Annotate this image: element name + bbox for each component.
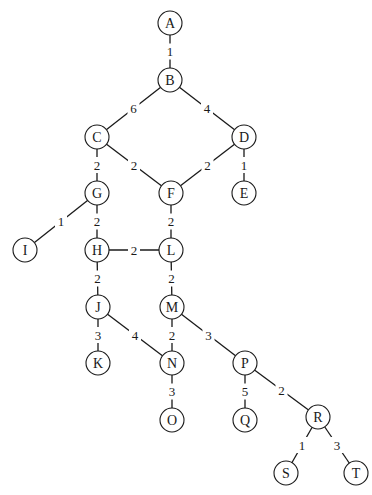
edge-weight-label: 1 xyxy=(299,438,306,453)
edge-weight-label: 3 xyxy=(205,328,212,343)
node-label: G xyxy=(92,186,102,201)
edge-weight-label: 1 xyxy=(58,214,65,229)
edge-weight-label: 3 xyxy=(95,328,102,343)
node-b: B xyxy=(158,68,182,92)
node-label: D xyxy=(239,130,249,145)
edge-weight-label: 2 xyxy=(169,328,176,343)
node-f: F xyxy=(159,181,183,205)
edge-m-p: 3 xyxy=(172,307,245,363)
node-q: Q xyxy=(233,408,257,432)
edge-weight-label: 3 xyxy=(334,438,341,453)
edge-c-f: 2 xyxy=(97,137,171,193)
edge-weight-label: 2 xyxy=(131,158,138,173)
node-s: S xyxy=(274,461,298,485)
edge-weight-label: 1 xyxy=(167,44,174,59)
edge-g-i: 1 xyxy=(25,193,97,250)
edge-weight-label: 2 xyxy=(204,158,211,173)
node-a: A xyxy=(158,11,182,35)
node-label: R xyxy=(313,410,323,425)
edge-weight-label: 2 xyxy=(278,383,285,398)
node-label: C xyxy=(92,130,101,145)
node-i: I xyxy=(13,238,37,262)
node-label: Q xyxy=(240,413,250,428)
edge-weight-label: 4 xyxy=(204,101,211,116)
edge-weight-label: 4 xyxy=(132,328,139,343)
node-k: K xyxy=(86,351,110,375)
edge-p-r: 2 xyxy=(245,363,318,417)
edge-weight-label: 6 xyxy=(130,101,137,116)
edge-weight-label: 5 xyxy=(242,384,249,399)
node-r: R xyxy=(306,405,330,429)
edge-weight-label: 1 xyxy=(241,158,248,173)
node-p: P xyxy=(233,351,257,375)
node-label: P xyxy=(241,356,249,371)
node-c: C xyxy=(85,125,109,149)
edge-weight-label: 2 xyxy=(94,158,101,173)
node-m: M xyxy=(160,295,184,319)
node-o: O xyxy=(160,408,184,432)
node-d: D xyxy=(232,125,256,149)
node-label: E xyxy=(240,186,249,201)
edge-b-d: 4 xyxy=(170,80,244,137)
edge-weight-label: 2 xyxy=(94,271,101,286)
node-label: M xyxy=(166,300,179,315)
edge-j-n: 4 xyxy=(98,307,172,363)
node-label: F xyxy=(167,186,175,201)
edges-layer: 1642221122222342335213 xyxy=(25,23,356,473)
node-n: N xyxy=(160,351,184,375)
node-h: H xyxy=(85,238,109,262)
node-l: L xyxy=(159,238,183,262)
node-label: S xyxy=(282,466,290,481)
node-label: H xyxy=(92,243,102,258)
node-label: O xyxy=(167,413,177,428)
node-g: G xyxy=(85,181,109,205)
edge-weight-label: 2 xyxy=(168,271,175,286)
edge-weight-label: 2 xyxy=(168,214,175,229)
node-label: K xyxy=(93,356,103,371)
node-label: A xyxy=(165,16,176,31)
node-label: T xyxy=(352,466,361,481)
graph-canvas: 1642221122222342335213 ABCDEFGIHLJMKNPOQ… xyxy=(0,0,372,495)
node-label: N xyxy=(167,356,177,371)
edge-weight-label: 3 xyxy=(169,384,176,399)
nodes-layer: ABCDEFGIHLJMKNPOQRST xyxy=(13,11,368,485)
edge-weight-label: 2 xyxy=(131,243,138,258)
node-label: B xyxy=(165,73,174,88)
node-label: L xyxy=(167,243,176,258)
edge-d-f: 2 xyxy=(171,137,244,193)
edge-b-c: 6 xyxy=(97,80,170,137)
node-j: J xyxy=(86,295,110,319)
node-label: I xyxy=(23,243,28,258)
edge-weight-label: 2 xyxy=(94,214,101,229)
node-t: T xyxy=(344,461,368,485)
node-label: J xyxy=(95,300,101,315)
node-e: E xyxy=(232,181,256,205)
